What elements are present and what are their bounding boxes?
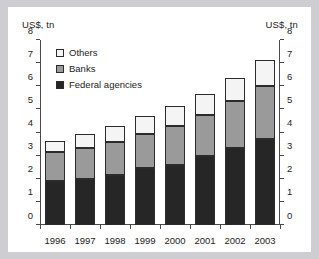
bar-2002 [225, 78, 245, 225]
y-tick-label-left-1: 1 [23, 188, 33, 198]
legend-item-others: Others [56, 45, 142, 60]
y-tick-label-right-3: 3 [287, 141, 297, 151]
x-tick-6 [220, 225, 221, 229]
y-tick-left-4 [36, 132, 40, 133]
x-tick-label-2002: 2002 [224, 235, 245, 246]
y-tick-label-right-4: 4 [287, 118, 297, 128]
bar-segment-banks-1997 [75, 148, 95, 179]
bar-segment-others-2001 [195, 94, 215, 115]
bar-1999 [135, 116, 155, 225]
bar-segment-others-1998 [105, 126, 125, 142]
y-tick-right-7 [280, 62, 284, 63]
chart-figure: US$, tn US$, tn 001122334455667788199619… [8, 7, 311, 252]
x-tick-label-1998: 1998 [104, 235, 125, 246]
bar-segment-federal-2002 [225, 148, 245, 225]
bar-segment-others-2003 [255, 60, 275, 87]
y-tick-right-3 [280, 155, 284, 156]
y-tick-left-1 [36, 201, 40, 202]
y-tick-right-8 [280, 39, 284, 40]
legend-swatch-others-icon [56, 49, 64, 57]
bar-segment-banks-1999 [135, 134, 155, 169]
y-tick-label-right-2: 2 [287, 165, 297, 175]
y-tick-label-right-5: 5 [287, 95, 297, 105]
x-tick-4 [160, 225, 161, 229]
bar-segment-federal-2003 [255, 139, 275, 225]
bar-segment-others-1996 [45, 141, 65, 153]
y-axis-left-spine [40, 40, 41, 225]
bar-segment-others-2002 [225, 78, 245, 101]
chart-legend: OthersBanksFederal agencies [56, 45, 142, 93]
bar-1997 [75, 134, 95, 225]
y-tick-right-1 [280, 201, 284, 202]
y-tick-label-left-3: 3 [23, 141, 33, 151]
y-tick-label-left-8: 8 [23, 26, 33, 36]
bar-segment-federal-1998 [105, 175, 125, 225]
y-tick-left-6 [36, 85, 40, 86]
y-tick-right-2 [280, 178, 284, 179]
x-tick-1 [70, 225, 71, 229]
x-tick-3 [130, 225, 131, 229]
bar-2003 [255, 60, 275, 225]
bar-segment-banks-2002 [225, 101, 245, 147]
x-tick-label-2001: 2001 [194, 235, 215, 246]
y-tick-left-7 [36, 62, 40, 63]
y-axis-right-spine [279, 40, 280, 225]
legend-item-federal-agencies: Federal agencies [56, 77, 142, 92]
y-tick-label-left-2: 2 [23, 165, 33, 175]
x-tick-7 [250, 225, 251, 229]
legend-item-banks: Banks [56, 61, 142, 76]
bar-segment-federal-1996 [45, 181, 65, 225]
y-tick-label-left-5: 5 [23, 95, 33, 105]
bar-1998 [105, 126, 125, 225]
bar-segment-banks-1996 [45, 152, 65, 181]
y-tick-left-5 [36, 108, 40, 109]
y-tick-left-3 [36, 155, 40, 156]
x-tick-label-2003: 2003 [254, 235, 275, 246]
y-tick-label-right-6: 6 [287, 72, 297, 82]
bar-segment-banks-2000 [165, 126, 185, 165]
legend-swatch-banks-icon [56, 65, 64, 73]
x-tick-2 [100, 225, 101, 229]
y-tick-right-4 [280, 132, 284, 133]
y-tick-label-left-4: 4 [23, 118, 33, 128]
y-tick-label-right-0: 0 [287, 211, 297, 221]
bar-segment-banks-1998 [105, 142, 125, 176]
bar-1996 [45, 141, 65, 225]
bar-segment-others-2000 [165, 106, 185, 126]
y-tick-label-right-8: 8 [287, 26, 297, 36]
bar-segment-others-1999 [135, 116, 155, 133]
bar-2000 [165, 106, 185, 225]
y-tick-left-8 [36, 39, 40, 40]
legend-label-federal-agencies: Federal agencies [69, 79, 142, 90]
bar-segment-others-1997 [75, 134, 95, 148]
bar-2001 [195, 94, 215, 225]
y-tick-left-2 [36, 178, 40, 179]
x-tick-5 [190, 225, 191, 229]
bar-segment-banks-2003 [255, 86, 275, 139]
x-tick-label-2000: 2000 [164, 235, 185, 246]
y-tick-label-right-1: 1 [287, 188, 297, 198]
legend-label-banks: Banks [69, 63, 95, 74]
legend-label-others: Others [69, 47, 98, 58]
y-tick-label-left-7: 7 [23, 49, 33, 59]
legend-swatch-federal-agencies-icon [56, 81, 64, 89]
x-tick-end [280, 225, 281, 229]
y-tick-label-right-7: 7 [287, 49, 297, 59]
x-tick-label-1999: 1999 [134, 235, 155, 246]
bar-segment-federal-2001 [195, 156, 215, 225]
bar-segment-banks-2001 [195, 115, 215, 155]
y-tick-right-5 [280, 108, 284, 109]
y-tick-label-left-6: 6 [23, 72, 33, 82]
x-tick-label-1996: 1996 [44, 235, 65, 246]
x-tick-label-1997: 1997 [74, 235, 95, 246]
y-tick-label-left-0: 0 [23, 211, 33, 221]
x-tick-0 [40, 225, 41, 229]
bar-segment-federal-1999 [135, 168, 155, 225]
y-tick-right-6 [280, 85, 284, 86]
bar-segment-federal-2000 [165, 165, 185, 225]
bar-segment-federal-1997 [75, 179, 95, 225]
